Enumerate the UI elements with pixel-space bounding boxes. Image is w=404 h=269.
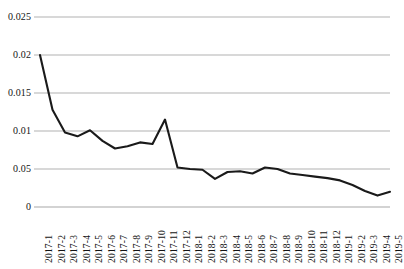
x-axis-tick-label: 2017-8 [132,235,142,263]
x-axis-tick-label: 2017-9 [144,235,154,263]
x-axis-tick-label: 2018-7 [269,235,279,263]
x-axis-tick-label: 2017-2 [57,235,67,263]
x-axis-tick-label: 2019-1 [344,235,354,263]
x-axis-tick-label: 2018-11 [319,230,329,263]
x-axis-tick-label: 2018-2 [207,235,217,263]
x-axis-tick-label: 2017-1 [44,235,54,263]
x-axis-tick-label: 2018-8 [282,235,292,263]
data-series-line [40,55,390,196]
y-axis-tick-label: 0 [26,201,31,212]
x-axis-tick-label: 2018-1 [194,235,204,263]
x-axis-tick-label: 2019-4 [382,235,392,263]
x-axis-tick-label: 2018-12 [332,230,342,263]
x-axis-tick-label: 2019-2 [357,235,367,263]
y-axis-tick-label: 0.05 [13,163,31,174]
chart-plot-area [0,0,404,269]
x-axis-tick-label: 2018-6 [257,235,267,263]
x-axis-tick-label: 2018-3 [219,235,229,263]
y-axis-tick-label: 0.025 [8,11,31,22]
line-chart: 0.0250.020.0150.010.050 2017-12017-22017… [0,0,404,269]
y-axis-tick-label: 0.02 [13,49,31,60]
gridline-group [34,17,390,207]
x-axis-tick-label: 2019-5 [394,235,404,263]
x-axis-tick-label: 2018-4 [232,235,242,263]
x-axis-tick-label: 2018-10 [307,230,317,263]
y-axis-tick-label: 0.01 [13,125,31,136]
x-axis-tick-label: 2017-6 [107,235,117,263]
x-axis-tick-label: 2017-11 [169,230,179,263]
x-axis-tick-label: 2018-9 [294,235,304,263]
x-axis-tick-label: 2017-3 [69,235,79,263]
y-axis-tick-label: 0.015 [8,87,31,98]
x-axis-tick-label: 2018-5 [244,235,254,263]
x-axis-tick-label: 2017-10 [157,230,167,263]
x-axis-tick-label: 2017-4 [82,235,92,263]
x-axis-tick-label: 2017-12 [182,230,192,263]
x-axis-tick-label: 2017-5 [94,235,104,263]
x-axis-tick-label: 2017-7 [119,235,129,263]
x-axis-tick-label: 2019-3 [369,235,379,263]
